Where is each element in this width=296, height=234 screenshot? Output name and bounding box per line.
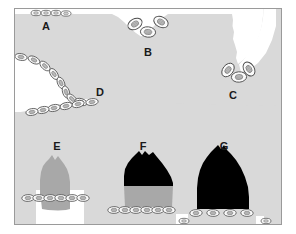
- schematic-figure: A B C D E F G: [0, 0, 296, 234]
- label-A: A: [42, 20, 50, 32]
- label-G: G: [220, 140, 229, 152]
- figure-content: [14, 8, 282, 225]
- label-D: D: [96, 86, 104, 98]
- dome-F-lower-band: [124, 186, 173, 207]
- label-F: F: [140, 140, 147, 152]
- label-E: E: [53, 140, 60, 152]
- figure-container: A B C D E F G: [0, 0, 296, 234]
- label-B: B: [144, 46, 152, 58]
- label-C: C: [229, 89, 237, 101]
- dome-E-base-stub: [41, 200, 70, 211]
